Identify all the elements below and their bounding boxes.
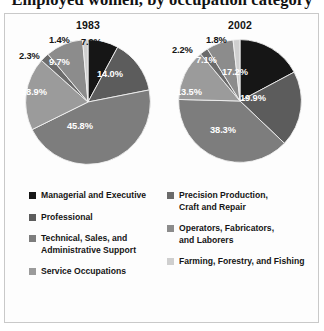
- legend-label-line2-operators-fabricators-and-laborers: and Laborers: [179, 235, 274, 247]
- figure-root: Employed women, by occupation category 1…: [0, 0, 324, 331]
- legend-swatch-service-occupations: [29, 268, 36, 275]
- pie-2002-label-1.8: 1.8%: [206, 35, 227, 45]
- legend-label-technical-sales-and-administrative-support: Technical, Sales, andAdministrative Supp…: [41, 233, 136, 256]
- page-title: Employed women, by occupation category: [11, 0, 312, 10]
- legend: Managerial and ExecutiveProfessionalTech…: [5, 190, 318, 322]
- pie-2002-label-2.2: 2.2%: [172, 45, 193, 55]
- pie-2002-label-19.9: 19.9%: [240, 93, 266, 103]
- pie-2002: 1.8% 17.2% 19.9% 38.3% 13.5% 7.1% 2.2%: [178, 39, 302, 163]
- legend-label-operators-fabricators-and-laborers: Operators, Fabricators,and Laborers: [179, 223, 274, 246]
- pie-2002-label-38.3: 38.3%: [210, 125, 236, 135]
- legend-item-farming-forestry-and-fishing[interactable]: Farming, Forestry, and Fishing: [167, 256, 319, 268]
- legend-column-1: Managerial and ExecutiveProfessionalTech…: [29, 190, 169, 288]
- legend-item-precision-production-craft-and-repair[interactable]: Precision Production,Craft and Repair: [167, 190, 319, 213]
- pie-2002-label-17.2: 17.2%: [222, 67, 248, 77]
- legend-swatch-farming-forestry-and-fishing: [167, 258, 174, 265]
- legend-label-service-occupations: Service Occupations: [41, 266, 126, 278]
- chart-2002-year-label: 2002: [165, 19, 315, 31]
- legend-label-line2-technical-sales-and-administrative-support: Administrative Support: [41, 245, 136, 257]
- pie-1983-label-9.7: 9.7%: [49, 57, 70, 67]
- legend-label-managerial-and-executive: Managerial and Executive: [41, 190, 146, 202]
- legend-item-operators-fabricators-and-laborers[interactable]: Operators, Fabricators,and Laborers: [167, 223, 319, 246]
- legend-swatch-managerial-and-executive: [29, 192, 36, 199]
- pie-1983-svg: [25, 39, 151, 165]
- pie-1983-label-18.9: 18.9%: [21, 87, 47, 97]
- legend-column-2: Precision Production,Craft and RepairOpe…: [167, 190, 319, 278]
- legend-item-professional[interactable]: Professional: [29, 212, 169, 224]
- legend-item-technical-sales-and-administrative-support[interactable]: Technical, Sales, andAdministrative Supp…: [29, 233, 169, 256]
- legend-label-professional: Professional: [41, 212, 93, 224]
- chart-1983-year-label: 1983: [13, 19, 163, 31]
- legend-item-service-occupations[interactable]: Service Occupations: [29, 266, 169, 278]
- pie-1983-label-45.8: 45.8%: [67, 121, 93, 131]
- chart-1983: 1983 1.4% 7.9% 14.0% 45.8% 18.9% 9.7% 2.…: [13, 14, 163, 165]
- legend-item-managerial-and-executive[interactable]: Managerial and Executive: [29, 190, 169, 202]
- chart-2002: 2002 1.8% 17.2% 19.9% 38.3% 13.5% 7.1% 2…: [165, 14, 315, 163]
- pie-1983: 1.4% 7.9% 14.0% 45.8% 18.9% 9.7% 2.3%: [25, 39, 151, 165]
- pie-1983-label-2.3: 2.3%: [19, 51, 40, 61]
- legend-swatch-technical-sales-and-administrative-support: [29, 235, 36, 242]
- pie-1983-label-14.0: 14.0%: [97, 69, 123, 79]
- pie-2002-label-7.1: 7.1%: [196, 55, 217, 65]
- legend-swatch-professional: [29, 214, 36, 221]
- figure-title-clipped: Employed women, by occupation category: [0, 0, 324, 12]
- legend-label-precision-production-craft-and-repair: Precision Production,Craft and Repair: [179, 190, 268, 213]
- legend-label-farming-forestry-and-fishing: Farming, Forestry, and Fishing: [179, 256, 304, 268]
- chart-panel: 1983 1.4% 7.9% 14.0% 45.8% 18.9% 9.7% 2.…: [4, 13, 319, 323]
- pie-2002-label-13.5: 13.5%: [176, 87, 202, 97]
- charts-container: 1983 1.4% 7.9% 14.0% 45.8% 18.9% 9.7% 2.…: [5, 14, 318, 189]
- pie-1983-label-1.4: 1.4%: [49, 35, 70, 45]
- legend-swatch-operators-fabricators-and-laborers: [167, 225, 174, 232]
- pie-1983-label-7.9: 7.9%: [81, 37, 102, 47]
- legend-label-line2-precision-production-craft-and-repair: Craft and Repair: [179, 202, 268, 214]
- legend-swatch-precision-production-craft-and-repair: [167, 192, 174, 199]
